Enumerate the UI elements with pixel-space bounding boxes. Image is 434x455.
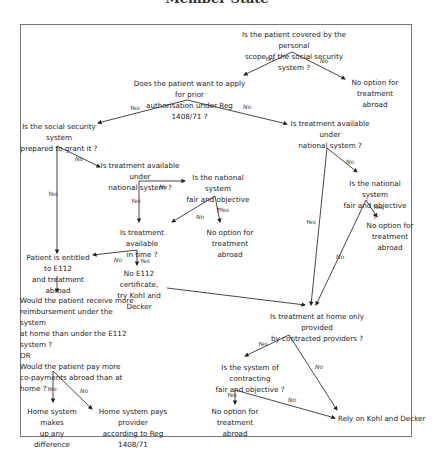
edge-label-yes: Yes [306,218,316,225]
node-reimbursement-question: Would the patient receive more reimburse… [20,295,135,394]
edge-label-yes: Yes [130,104,140,111]
node-home-makes-up: Home system makes up any difference [22,406,82,450]
node-entitled-e112: Patient is entitled to E112 and treatmen… [22,252,94,296]
node-contracted-providers: Is treatment at home only provided by co… [262,311,372,344]
edge-label-no: No [159,183,167,190]
node-no-option-4: No option for treatment abroad [205,406,265,439]
edge-label-no: No [315,363,323,370]
edge-label-no: No [114,256,122,263]
edge-label-yes: Yes [373,203,383,210]
edge-label-no: No [336,253,344,260]
node-no-option-1: No option for treatment abroad [345,77,405,110]
edge-label-no: No [346,158,354,165]
node-available-mid: Is treatment available under national sy… [100,160,180,193]
node-fair-right: Is the national system fair and objectiv… [342,178,408,222]
edge-label-no: No [320,57,328,64]
edge-label-yes: Yes [258,340,268,347]
edge-label-yes: Yes [227,391,237,398]
node-available-right: Is treatment available under national sy… [290,118,370,151]
edge-label-yes: Yes [47,385,57,392]
node-prior-authorisation: Does the patient want to apply for prior… [132,78,247,122]
edge-label-no: No [196,213,204,220]
node-prepared-to-grant: Is the social security system prepared t… [20,121,98,154]
node-no-option-3: No option for treatment abroad [360,220,420,253]
edge-label-no: No [80,387,88,394]
node-covered-by-scope: Is the patient covered by the personal s… [238,29,350,73]
node-fair-mid: Is the national system fair and objectiv… [185,172,251,216]
node-rely-kohl-decker: Rely on Kohl and Decker [338,413,410,424]
edge-label-yes: Yes [131,197,141,204]
edge-label-no: No [243,103,251,110]
node-home-pays-provider: Home system pays provider according to R… [93,406,173,450]
edge-label-yes: Yes [48,190,58,197]
edge-label-yes: Yes [219,206,229,213]
edge-label-yes: Yes [265,55,275,62]
node-no-option-2: No option for treatment abroad [200,227,260,260]
edge-label-no: No [75,155,83,162]
edge-label-yes: Yes [140,257,150,264]
node-contracting-fair: Is the system of contracting fair and ob… [205,362,295,395]
edge-label-no: No [288,396,296,403]
